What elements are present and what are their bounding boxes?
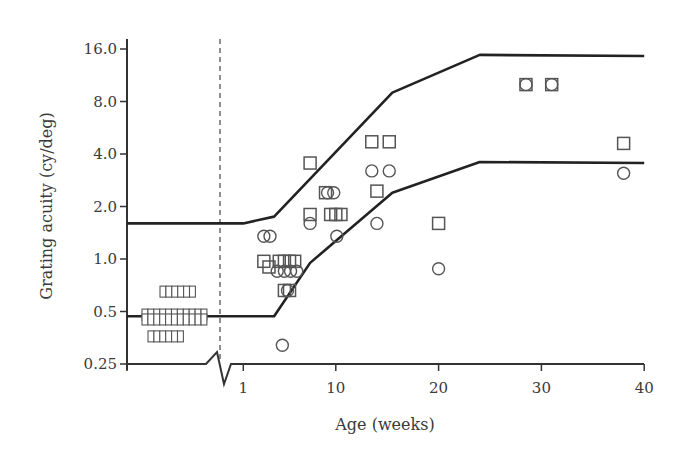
circle-marker	[383, 165, 395, 177]
y-tick-label: 0.5	[93, 303, 117, 321]
preterm-square-marker	[178, 286, 184, 297]
preterm-square-marker	[183, 314, 189, 325]
square-marker	[618, 137, 630, 149]
circle-marker	[433, 263, 445, 275]
circle-marker	[366, 165, 378, 177]
circle-marker	[304, 217, 316, 229]
preterm-square-marker	[177, 314, 183, 325]
x-tick-label: 1	[239, 379, 249, 397]
preterm-square-marker	[166, 286, 172, 297]
x-tick-label: 30	[532, 379, 551, 397]
preterm-square-marker	[178, 331, 184, 342]
preterm-square-marker	[190, 286, 196, 297]
lower-limit-curve	[127, 162, 644, 316]
square-marker	[366, 136, 378, 148]
preterm-square-marker	[148, 314, 154, 325]
preterm-square-marker	[154, 331, 160, 342]
y-tick-label: 8.0	[93, 93, 117, 111]
square-marker	[433, 217, 445, 229]
preterm-square-marker	[166, 314, 172, 325]
preterm-square-marker	[166, 331, 172, 342]
preterm-square-marker	[160, 331, 166, 342]
x-tick-label: 20	[429, 379, 448, 397]
curves	[127, 55, 644, 316]
preterm-square-marker	[189, 314, 195, 325]
square-marker	[371, 185, 383, 197]
square-marker	[330, 208, 342, 220]
y-axis-title: Grating acuity (cy/deg)	[37, 112, 56, 299]
preterm-square-marker	[160, 286, 166, 297]
preterm-square-marker	[201, 314, 207, 325]
chart: 16.08.04.02.01.00.50.25110203040 Grating…	[0, 0, 687, 454]
preterm-square-marker	[172, 331, 178, 342]
y-tick-label: 0.25	[84, 355, 117, 373]
circle-marker	[520, 79, 532, 91]
preterm-square-marker	[148, 331, 154, 342]
y-tick-label: 2.0	[93, 198, 117, 216]
markers	[142, 79, 630, 352]
y-tick-label: 16.0	[84, 40, 117, 58]
preterm-square-marker	[172, 286, 178, 297]
y-tick-label: 4.0	[93, 145, 117, 163]
y-tick-label: 1.0	[93, 250, 117, 268]
preterm-square-marker	[142, 314, 148, 325]
circle-marker	[618, 167, 630, 179]
preterm-square-marker	[154, 314, 160, 325]
x-tick-label: 40	[635, 379, 654, 397]
x-tick-label: 10	[326, 379, 345, 397]
axes: 16.08.04.02.01.00.50.25110203040	[84, 39, 654, 397]
preterm-square-marker	[160, 314, 166, 325]
circle-marker	[276, 339, 288, 351]
x-axis-title: Age (weeks)	[334, 415, 434, 434]
x-axis-line	[127, 352, 644, 384]
preterm-square-marker	[195, 314, 201, 325]
preterm-square-marker	[172, 314, 178, 325]
circle-marker	[371, 217, 383, 229]
circle-marker	[546, 79, 558, 91]
preterm-square-marker	[184, 286, 190, 297]
square-marker	[383, 136, 395, 148]
square-marker	[304, 157, 316, 169]
